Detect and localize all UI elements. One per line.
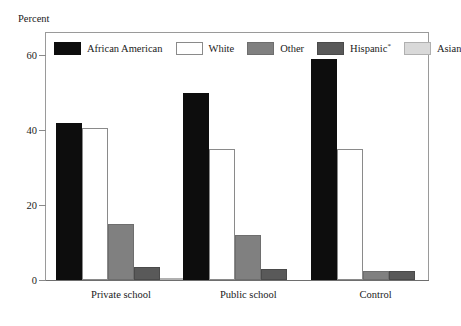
bar bbox=[108, 224, 134, 280]
bar bbox=[56, 123, 82, 280]
y-axis-tick bbox=[39, 130, 46, 131]
legend-label: Other bbox=[280, 42, 304, 55]
legend-item: White bbox=[176, 42, 235, 55]
bar bbox=[82, 128, 108, 280]
legend-swatch-icon bbox=[176, 42, 203, 55]
x-axis-line bbox=[45, 280, 429, 281]
chart-legend: African AmericanWhiteOtherHispanic*Asian bbox=[54, 42, 461, 55]
bar bbox=[311, 59, 337, 280]
legend-swatch-icon bbox=[54, 42, 81, 55]
legend-swatch-icon bbox=[247, 42, 274, 55]
x-axis-tick-label: Control bbox=[360, 288, 392, 301]
y-axis-tick-label: 60 bbox=[11, 50, 37, 61]
bar bbox=[261, 269, 287, 280]
bar-group bbox=[56, 33, 186, 280]
legend-label: Asian bbox=[437, 42, 461, 55]
x-axis-tick-labels: Private schoolPublic schoolControl bbox=[45, 288, 429, 306]
legend-item: Hispanic* bbox=[317, 42, 391, 55]
y-axis-tick-labels: 0204060 bbox=[0, 0, 37, 326]
bar-group bbox=[183, 33, 313, 280]
y-axis-tick-label: 40 bbox=[11, 125, 37, 136]
y-axis-tick bbox=[39, 280, 46, 281]
bar bbox=[363, 271, 389, 280]
legend-swatch-icon bbox=[404, 42, 431, 55]
bar bbox=[183, 93, 209, 280]
footnote-marker: * bbox=[387, 42, 391, 50]
y-axis-tick bbox=[39, 205, 46, 206]
x-axis-tick-label: Public school bbox=[220, 288, 277, 301]
legend-item: African American bbox=[54, 42, 163, 55]
bar-group bbox=[311, 33, 441, 280]
legend-label: White bbox=[209, 42, 235, 55]
bar bbox=[134, 267, 160, 280]
y-axis-tick-label: 20 bbox=[11, 200, 37, 211]
legend-item: Other bbox=[247, 42, 304, 55]
legend-item: Asian bbox=[404, 42, 461, 55]
y-axis-tick bbox=[39, 55, 46, 56]
plot-area bbox=[46, 33, 428, 280]
bars-layer bbox=[46, 33, 428, 280]
legend-label: African American bbox=[87, 42, 163, 55]
bar bbox=[389, 271, 415, 280]
bar bbox=[235, 235, 261, 280]
y-axis-tick-label: 0 bbox=[11, 275, 37, 286]
legend-label: Hispanic* bbox=[350, 42, 391, 55]
bar bbox=[209, 149, 235, 280]
bar bbox=[337, 149, 363, 280]
x-axis-tick-label: Private school bbox=[91, 288, 151, 301]
legend-swatch-icon bbox=[317, 42, 344, 55]
